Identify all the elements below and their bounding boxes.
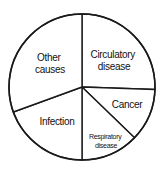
label-line: causes [35, 64, 65, 75]
label-line: Infection [39, 116, 74, 127]
label-line: disease [98, 61, 131, 72]
label-line: disease [95, 142, 117, 149]
label-cancer: Cancer [112, 99, 143, 110]
label-line: Other [37, 52, 61, 63]
label-line: Respiratory [89, 133, 122, 141]
label-line: Cancer [112, 99, 143, 110]
label-infection: Infection [39, 116, 74, 127]
pie-chart: Other causes Circulatory disease Cancer … [0, 0, 162, 170]
label-line: Circulatory [91, 49, 136, 60]
label-other-causes: Other causes [35, 52, 65, 75]
